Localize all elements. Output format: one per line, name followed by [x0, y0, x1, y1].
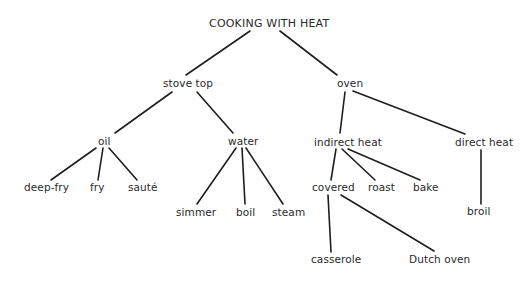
edge-covered-to-casserole: [328, 195, 331, 252]
node-indirect-heat: indirect heat: [314, 136, 382, 148]
node-oven: oven: [337, 77, 363, 89]
edge-covered-to-dutch_oven: [341, 195, 434, 251]
edge-oil-to-fry: [98, 148, 103, 180]
node-oil: oil: [98, 135, 111, 147]
node-covered: covered: [312, 181, 355, 193]
edge-root-to-oven: [280, 31, 337, 75]
node-broil: broil: [467, 205, 491, 217]
node-dutch-oven: Dutch oven: [409, 253, 470, 265]
node-casserole: casserole: [311, 253, 361, 265]
node-direct-heat: direct heat: [455, 136, 513, 148]
node-stove-top: stove top: [163, 77, 213, 89]
node-boil: boil: [236, 206, 255, 218]
node-steam: steam: [272, 206, 305, 218]
edge-water-to-boil: [242, 148, 245, 204]
node-water: water: [228, 135, 258, 147]
edge-oven-to-direct_heat: [353, 91, 465, 134]
tree-edges: [0, 0, 528, 285]
edge-stove_top-to-oil: [115, 92, 172, 133]
edge-indirect_heat-to-covered: [331, 149, 336, 180]
edge-water-to-steam: [246, 148, 283, 204]
node-simmer: simmer: [176, 206, 216, 218]
edge-oil-to-saute: [109, 148, 137, 180]
edge-water-to-simmer: [197, 148, 236, 204]
node-saute: sauté: [128, 181, 158, 193]
node-deep-fry: deep-fry: [24, 181, 69, 193]
cooking-with-heat-tree-diagram: COOKING WITH HEAT stove top oven oil wat…: [0, 0, 528, 285]
edge-stove_top-to-water: [197, 92, 233, 133]
node-roast: roast: [368, 181, 395, 193]
edge-oven-to-indirect_heat: [340, 92, 345, 133]
node-bake: bake: [413, 181, 439, 193]
node-fry: fry: [90, 181, 105, 193]
node-root-title: COOKING WITH HEAT: [209, 18, 329, 30]
edge-root-to-stove_top: [186, 31, 250, 75]
edge-oil-to-deep_fry: [51, 148, 96, 180]
